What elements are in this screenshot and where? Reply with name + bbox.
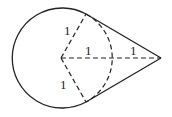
label-outer-segment: 1 — [130, 43, 137, 58]
label-radius-horizontal: 1 — [85, 43, 92, 58]
tangent-line-lower — [86, 58, 161, 102]
geometry-diagram: 1 1 1 1 — [0, 0, 172, 117]
tangent-line-upper — [86, 14, 161, 58]
label-radius-lower: 1 — [60, 77, 67, 92]
circle-solid-arc — [12, 8, 86, 108]
label-radius-upper: 1 — [64, 23, 71, 38]
